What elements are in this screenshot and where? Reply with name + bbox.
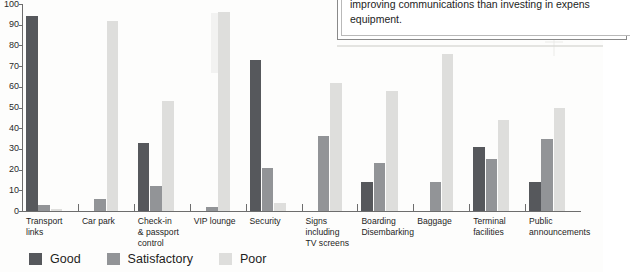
chart-legend: GoodSatisfactoryPoor: [29, 252, 292, 266]
bar-poor: [162, 101, 174, 211]
x-axis-tick: [134, 204, 135, 212]
bar-satisfactory: [262, 168, 274, 211]
bar-satisfactory: [94, 199, 106, 211]
y-axis-tick-label: 20: [0, 165, 19, 174]
y-axis-tick: [19, 190, 23, 191]
x-axis-tick: [302, 204, 303, 212]
y-axis-labels: 1009080706050403020100: [0, 0, 19, 220]
legend-swatch-icon: [29, 253, 42, 265]
bar-poor: [107, 21, 119, 211]
x-axis-tick: [525, 204, 526, 212]
y-axis-tick: [19, 87, 23, 88]
x-axis-tick: [190, 204, 191, 212]
legend-label: Poor: [240, 252, 266, 266]
bar-poor: [554, 108, 566, 212]
callout-text: improving communications than investing …: [350, 0, 634, 27]
bar-poor: [442, 54, 454, 211]
bar-satisfactory: [486, 159, 498, 211]
y-axis-tick-label: 30: [0, 144, 19, 153]
x-axis-tick: [357, 204, 358, 212]
bar-satisfactory: [430, 182, 442, 211]
legend-label: Satisfactory: [128, 252, 193, 266]
y-axis-tick-label: 40: [0, 124, 19, 133]
bar-satisfactory: [150, 186, 162, 211]
bar-satisfactory: [318, 136, 330, 211]
y-axis-tick: [19, 108, 23, 109]
y-axis-tick: [19, 128, 23, 129]
y-axis-tick-label: 60: [0, 82, 19, 91]
y-axis-tick-label: 50: [0, 103, 19, 112]
scan-artifact-line: [337, 45, 603, 47]
legend-item-poor: Poor: [219, 252, 266, 266]
bar-poor: [330, 83, 342, 211]
bar-poor: [274, 203, 286, 211]
bar-good: [473, 147, 485, 211]
y-axis-tick-label: 0: [0, 207, 19, 216]
callout-box: improving communications than investing …: [337, 0, 627, 40]
legend-item-satisfactory: Satisfactory: [107, 252, 193, 266]
bar-good: [26, 16, 38, 211]
y-axis-tick: [19, 170, 23, 171]
legend-swatch-icon: [219, 253, 232, 265]
bar-good: [529, 182, 541, 211]
y-axis-tick: [19, 149, 23, 150]
bar-good: [250, 60, 262, 211]
y-axis-tick: [19, 66, 23, 67]
bar-good: [361, 182, 373, 211]
legend-item-good: Good: [29, 252, 81, 266]
x-axis-tick: [413, 204, 414, 212]
bar-poor: [218, 12, 230, 211]
bar-poor: [386, 91, 398, 211]
y-axis-tick-label: 80: [0, 41, 19, 50]
y-axis-tick-label: 100: [0, 0, 19, 9]
legend-label: Good: [50, 252, 81, 266]
legend-swatch-icon: [107, 253, 120, 265]
bar-poor: [51, 209, 63, 211]
y-axis-tick-label: 10: [0, 186, 19, 195]
y-axis-tick-label: 90: [0, 20, 19, 29]
y-axis-tick: [19, 45, 23, 46]
x-axis-tick: [22, 204, 23, 212]
y-axis-tick: [19, 25, 23, 26]
bar-good: [138, 143, 150, 211]
y-axis-tick: [19, 4, 23, 5]
x-axis-category-label: Publicannouncements: [529, 216, 599, 238]
bar-poor: [498, 120, 510, 211]
y-axis-tick-label: 70: [0, 62, 19, 71]
bar-satisfactory: [206, 207, 218, 211]
bar-satisfactory: [374, 163, 386, 211]
bar-satisfactory: [38, 205, 50, 211]
x-axis-tick: [78, 204, 79, 212]
x-axis-tick: [469, 204, 470, 212]
bar-satisfactory: [541, 139, 553, 211]
x-axis-tick: [246, 204, 247, 212]
